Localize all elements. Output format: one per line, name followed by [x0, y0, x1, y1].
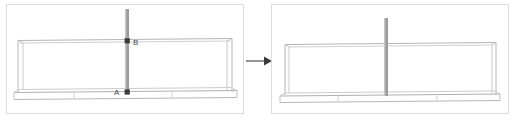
right-panel: [272, 5, 509, 114]
point-b-marker: [125, 38, 130, 43]
label-b: B: [133, 38, 138, 47]
diagram-svg: B A: [0, 0, 515, 122]
left-panel-center-post: [125, 9, 129, 94]
point-a-marker: [125, 89, 130, 94]
arrow-head: [264, 57, 272, 66]
center-post-highlight: [384, 18, 385, 96]
left-panel: B A: [7, 5, 244, 114]
center-post-highlight: [125, 9, 126, 94]
transform-arrow: [246, 57, 272, 66]
right-panel-frame: [272, 5, 509, 114]
diagram-canvas: B A: [0, 0, 515, 122]
right-panel-center-post: [384, 18, 388, 96]
label-a: A: [114, 88, 120, 97]
